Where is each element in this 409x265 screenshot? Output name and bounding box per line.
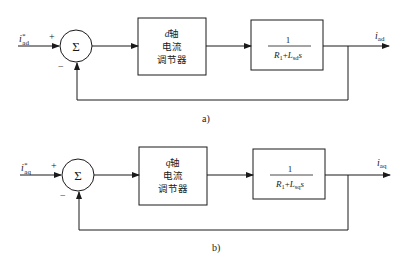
output-label-b: iaq bbox=[377, 157, 387, 170]
regulator-line3-b: 调节器 bbox=[158, 183, 188, 194]
tf-numerator-b: 1 bbox=[288, 164, 293, 174]
regulator-line3-a: 调节器 bbox=[157, 54, 187, 65]
diagram-b: i*aq + − Σ q轴 电流 调节器 1 R1+Lsqs iaq b) bbox=[20, 147, 390, 254]
output-label-a: iad bbox=[375, 30, 385, 43]
plus-sign-a: + bbox=[49, 31, 55, 42]
caption-a: a) bbox=[202, 113, 210, 125]
sigma-icon: Σ bbox=[72, 39, 80, 54]
control-block-diagrams: i*ad + − Σ d轴 电流 调节器 1 R1+Lsds iad a) i*… bbox=[0, 0, 409, 265]
input-label-a: i*ad bbox=[19, 32, 29, 47]
sigma-icon: Σ bbox=[74, 168, 82, 183]
regulator-line2-a: 电流 bbox=[162, 41, 182, 52]
plant-transfer-function-a bbox=[251, 20, 323, 70]
plus-sign-b: + bbox=[51, 160, 57, 171]
regulator-title-b: q轴 bbox=[166, 157, 181, 168]
plant-transfer-function-b bbox=[253, 149, 325, 199]
regulator-line2-b: 电流 bbox=[163, 170, 183, 181]
minus-sign-a: − bbox=[58, 61, 64, 72]
tf-numerator-a: 1 bbox=[286, 35, 291, 45]
input-label-b: i*aq bbox=[21, 161, 31, 176]
tf-denominator-a: R1+Lsds bbox=[273, 50, 303, 61]
feedback-path-b bbox=[79, 175, 348, 230]
regulator-title-a: d轴 bbox=[165, 28, 180, 39]
tf-denominator-b: R1+Lsqs bbox=[275, 179, 305, 190]
diagram-a: i*ad + − Σ d轴 电流 调节器 1 R1+Lsds iad a) bbox=[18, 18, 389, 125]
caption-b: b) bbox=[212, 242, 220, 254]
minus-sign-b: − bbox=[60, 190, 66, 201]
feedback-path-a bbox=[77, 46, 348, 100]
